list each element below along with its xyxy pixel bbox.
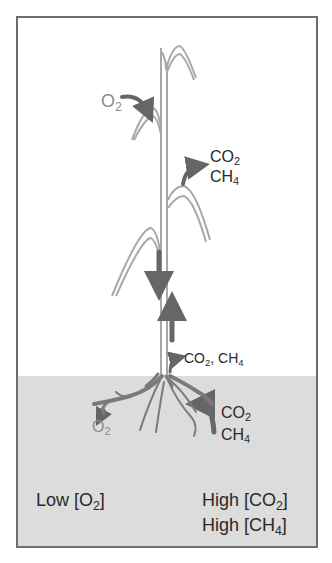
low-o2-pre: Low [O (36, 490, 93, 510)
leaf-emission-label-ch4: CH4 (210, 168, 239, 186)
high-ch4-post: ] (282, 515, 287, 535)
o2-leaf-label-base: O (101, 91, 115, 111)
low-o2-label: Low [O2] (36, 489, 105, 511)
leaf-emission-arrow (183, 166, 198, 184)
ch4-sub: 4 (244, 433, 250, 445)
right-leaf (168, 186, 210, 242)
stem-base-emission-arrow (170, 358, 178, 372)
lower-left-leaf (112, 228, 160, 296)
roots (94, 374, 212, 436)
root-o2-release-label: O2 (92, 418, 111, 436)
ch4-base: CH (210, 168, 233, 185)
high-co2-label: High [CO2] (202, 489, 288, 511)
high-co2-pre: High [CO (202, 490, 276, 510)
soil-uptake-label-ch4: CH4 (221, 426, 250, 444)
high-co2-post: ] (283, 490, 288, 510)
o2-leaf-label-sub: 2 (115, 100, 122, 114)
co2-sub: 2 (245, 411, 251, 423)
o2-entry-arrow (122, 97, 148, 112)
high-co2-sub: 2 (276, 499, 283, 513)
soil-uptake-arrow (200, 404, 214, 432)
o2-base: O (92, 418, 104, 435)
sep: , CH (210, 350, 238, 366)
stem (161, 48, 167, 378)
sub2: 4 (238, 357, 243, 368)
plant-illustration (0, 0, 332, 563)
low-o2-post: ] (100, 490, 105, 510)
co2-sub: 2 (234, 155, 240, 167)
leaf-emission-label-co2: CO2 (210, 148, 240, 166)
ch4-sub: 4 (233, 175, 239, 187)
o2-sub: 2 (104, 425, 110, 437)
high-ch4-sub: 4 (275, 524, 282, 538)
high-ch4-label: High [CH4] (202, 514, 287, 536)
part1: CO (184, 350, 205, 366)
low-o2-sub: 2 (93, 499, 100, 513)
co2-base: CO (210, 148, 234, 165)
co2-base: CO (221, 404, 245, 421)
high-ch4-pre: High [CH (202, 515, 275, 535)
stem-base-emission-label: CO2, CH4 (184, 350, 244, 366)
soil-uptake-label-co2: CO2 (221, 404, 251, 422)
o2-leaf-label: O2 (101, 90, 122, 112)
ch4-base: CH (221, 426, 244, 443)
